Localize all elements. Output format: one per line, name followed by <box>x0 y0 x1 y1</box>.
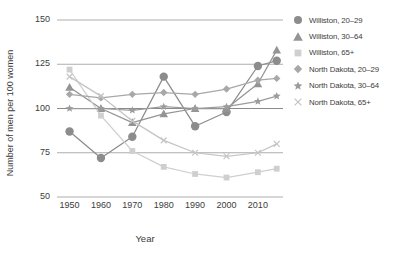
data-point-marker <box>97 154 105 162</box>
legend-item[interactable]: North Dakota, 30–64 <box>292 78 396 94</box>
data-point-marker <box>66 104 74 111</box>
x-tick-label: 2000 <box>210 200 244 210</box>
data-point-marker <box>192 171 198 177</box>
legend-item[interactable]: Williston, 65+ <box>292 45 396 61</box>
data-point-marker <box>294 81 303 89</box>
data-point-marker <box>224 175 230 181</box>
square-icon <box>292 47 304 59</box>
x-tick-label: 1960 <box>84 200 118 210</box>
data-point-marker <box>274 141 280 147</box>
data-point-marker <box>191 91 198 98</box>
y-tick-label: 100 <box>20 103 50 113</box>
legend-item[interactable]: North Dakota, 20–29 <box>292 61 396 77</box>
legend-label: Williston, 30–64 <box>309 32 362 41</box>
x-axis-title: Year <box>0 233 290 244</box>
data-point-marker <box>294 65 302 73</box>
chart-legend: Williston, 20–29Williston, 30–64Willisto… <box>292 12 396 110</box>
data-point-marker <box>273 92 281 99</box>
data-point-marker <box>255 169 261 175</box>
data-point-marker <box>161 137 167 143</box>
legend-label: North Dakota, 30–64 <box>309 81 379 90</box>
star-icon <box>292 80 304 92</box>
data-point-marker <box>65 127 73 135</box>
data-point-marker <box>128 106 136 113</box>
triangle-icon <box>292 31 304 43</box>
series-2 <box>67 67 280 181</box>
series-3 <box>66 75 281 102</box>
x-tick-label: 2010 <box>241 200 275 210</box>
series-0 <box>65 57 281 163</box>
legend-label: North Dakota, 20–29 <box>309 65 379 74</box>
data-point-marker <box>254 62 262 70</box>
legend-item[interactable]: Williston, 30–64 <box>292 28 396 44</box>
data-point-marker <box>295 99 302 106</box>
data-point-marker <box>129 91 136 98</box>
y-tick-label: 50 <box>20 191 50 201</box>
data-point-marker <box>67 67 73 73</box>
data-point-marker <box>272 46 281 54</box>
data-point-marker <box>293 32 303 41</box>
data-point-marker <box>295 50 302 57</box>
x-tick-label: 1950 <box>53 200 87 210</box>
legend-label: Williston, 20–29 <box>309 16 362 25</box>
data-point-marker <box>129 148 135 154</box>
legend-label: North Dakota, 65+ <box>309 98 371 107</box>
y-axis-title: Number of men per 100 women <box>2 30 18 195</box>
series-1 <box>65 46 281 126</box>
data-point-marker <box>294 16 302 24</box>
x-tick-label: 1980 <box>147 200 181 210</box>
circle-icon <box>292 14 304 26</box>
chart-figure: Number of men per 100 women Year 5075100… <box>0 0 397 256</box>
data-point-marker <box>98 113 104 119</box>
data-point-marker <box>273 57 281 65</box>
x-tick-label: 1990 <box>178 200 212 210</box>
data-point-marker <box>223 85 230 92</box>
x-tick-label: 1970 <box>115 200 149 210</box>
data-point-marker <box>160 72 168 80</box>
data-point-marker <box>161 164 167 170</box>
legend-item[interactable]: Williston, 20–29 <box>292 12 396 28</box>
x-icon <box>292 96 304 108</box>
data-point-marker <box>65 83 74 91</box>
legend-item[interactable]: North Dakota, 65+ <box>292 94 396 110</box>
diamond-icon <box>292 63 304 75</box>
data-point-marker <box>274 166 280 172</box>
data-point-marker <box>273 75 280 82</box>
data-point-marker <box>66 91 73 98</box>
data-point-marker <box>254 76 261 83</box>
y-tick-label: 75 <box>20 147 50 157</box>
data-point-marker <box>191 122 199 130</box>
legend-label: Williston, 65+ <box>309 48 354 57</box>
data-point-marker <box>128 133 136 141</box>
data-point-marker <box>67 74 73 80</box>
y-tick-label: 150 <box>20 14 50 24</box>
data-point-marker <box>160 89 167 96</box>
data-point-marker <box>254 97 262 104</box>
y-tick-label: 125 <box>20 58 50 68</box>
